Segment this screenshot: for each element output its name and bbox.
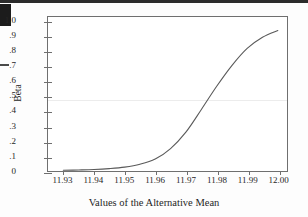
y-axis-tick-label: .9 [0, 31, 16, 40]
y-axis-tick-inner [48, 128, 52, 129]
y-axis-tick-label: .1 [0, 152, 16, 161]
y-axis-tick-label: .8 [0, 46, 16, 55]
scan-page-top-edge [0, 0, 308, 3]
y-axis-tick-inner [48, 158, 52, 159]
x-axis-tick-label: 12.00 [259, 176, 299, 185]
y-axis-tick-label: 0 [0, 167, 16, 176]
y-axis-tick-label: .7 [0, 61, 16, 70]
y-axis-tick-label: .3 [0, 122, 16, 131]
y-axis-tick-inner [48, 173, 52, 174]
y-axis-tick-label: .5 [0, 91, 16, 100]
y-axis-tick-inner [48, 52, 52, 53]
y-axis-tick-label: .6 [0, 76, 16, 85]
y-axis-tick-inner [48, 67, 52, 68]
y-axis-tick-inner [48, 143, 52, 144]
y-axis-tick-inner [48, 82, 52, 83]
y-axis-tick-inner [48, 112, 52, 113]
y-axis-tick-inner [48, 37, 52, 38]
y-axis-tick-inner [48, 97, 52, 98]
y-axis-tick-label: 1.0 [0, 16, 16, 25]
x-axis-title: Values of the Alternative Mean [0, 197, 308, 208]
plot-area [47, 16, 288, 172]
y-axis-tick-label: .4 [0, 106, 16, 115]
figure-root: Beta Values of the Alternative Mean 0.1.… [0, 0, 308, 217]
y-axis-tick-inner [48, 22, 52, 23]
y-axis-tick-label: .2 [0, 137, 16, 146]
power-curve [48, 17, 287, 171]
